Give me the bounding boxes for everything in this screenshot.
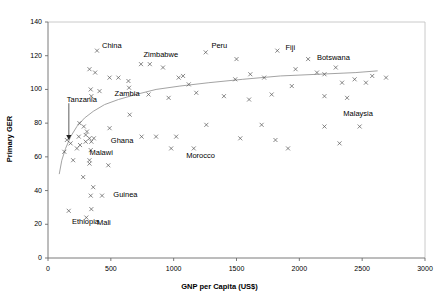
data-point [100,194,104,198]
country-label: Morocco [186,152,215,160]
x-tick-label: 500 [91,265,131,272]
data-point [77,121,81,125]
data-point [67,209,71,213]
data-point [384,76,388,80]
data-point [340,81,344,85]
data-points [62,49,388,220]
y-tick-label: 120 [6,52,42,59]
data-point [338,141,342,145]
y-tick-label: 140 [6,18,42,25]
data-point [345,96,349,100]
data-point [106,163,110,167]
data-point [95,49,99,53]
data-point [92,136,96,140]
data-point [169,146,173,150]
data-point [161,66,165,70]
data-point [87,158,91,162]
x-tick-label: 0 [28,265,68,272]
data-point [98,89,102,93]
data-point [89,194,93,198]
country-label: Mali [97,219,111,227]
y-tick-label: 0 [6,254,42,261]
country-label: Malawi [90,149,113,157]
country-label: China [102,42,122,50]
data-point [177,76,181,80]
country-label: Guinea [113,191,137,199]
y-tick-label: 20 [6,220,42,227]
data-point [147,92,151,96]
x-tick-label: 2000 [279,265,319,272]
data-point [89,207,93,211]
data-point [306,57,310,61]
data-point [364,81,368,85]
data-point [84,133,88,137]
data-point [85,130,89,134]
data-point [194,91,198,95]
country-label: Ghana [111,137,134,145]
country-label: Malaysia [343,110,373,118]
data-point [273,138,277,142]
data-point [204,50,208,54]
data-point [204,123,208,127]
x-tick-label: 3000 [405,265,439,272]
data-point [275,49,279,53]
data-point [235,57,239,61]
x-tick-label: 1500 [217,265,257,272]
annotation-arrow [66,103,71,140]
data-point [192,146,196,150]
scatter-chart: 0204060801001201400500100015002000250030… [0,0,439,301]
data-point [148,62,152,66]
data-point [91,185,95,189]
data-point [126,79,130,83]
data-point [322,94,326,98]
data-point [69,141,73,145]
country-label: Ethiopia [72,218,99,226]
y-axis-title: Primary GER [6,89,14,189]
country-label: Peru [211,42,227,50]
data-point [116,76,120,80]
data-point [222,94,226,98]
data-point [294,67,298,71]
data-point [238,136,242,140]
trend-line [59,71,377,174]
country-label: Zambia [115,90,140,98]
country-label: Fiji [286,44,296,52]
x-tick-label: 1000 [154,265,194,272]
data-point [233,77,237,81]
data-point [322,125,326,129]
data-point [260,123,264,127]
data-point [89,87,93,91]
data-point [174,135,178,139]
data-point [286,146,290,150]
data-point [370,74,374,78]
data-point [82,125,86,129]
country-label: Zimbabwe [144,51,179,59]
data-point [108,126,112,130]
data-point [108,76,112,80]
x-axis-title: GNP per Capita (US$) [0,283,439,291]
data-point [181,74,185,78]
data-point [187,82,191,86]
data-point [77,135,81,139]
data-point [93,71,97,75]
x-tick-label: 2500 [342,265,382,272]
data-point [71,158,75,162]
data-point [290,84,294,88]
country-label: Botswana [317,54,350,62]
data-point [128,113,132,117]
data-point [87,67,91,71]
data-point [140,135,144,139]
data-point [353,77,357,81]
country-label: Tanzania [67,96,97,104]
data-point [167,96,171,100]
data-point [75,146,79,150]
data-point [248,72,252,76]
data-point [84,140,88,144]
data-point [334,66,338,70]
data-point [87,162,91,166]
data-point [139,62,143,66]
data-point [81,175,85,179]
data-point [270,92,274,96]
data-point [247,98,251,102]
data-point [358,125,362,129]
